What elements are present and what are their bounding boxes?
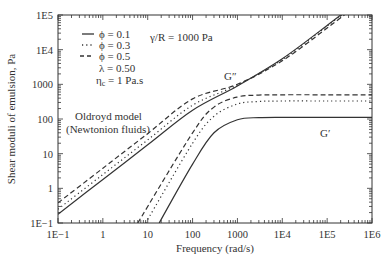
x-tick-label: 1E4 bbox=[274, 229, 292, 240]
x-tick-label: 10 bbox=[142, 229, 153, 240]
y-tick-label: 1000 bbox=[32, 79, 53, 90]
y-tick-label: 1 bbox=[48, 183, 53, 194]
y-tick-label: 10 bbox=[43, 149, 54, 160]
x-tick-label: 1E6 bbox=[364, 229, 381, 240]
x-tick-label: 1000 bbox=[227, 229, 248, 240]
gamma-annotation: γ/R = 1000 Pa bbox=[149, 31, 213, 43]
oldroyd-label-2: (Newtonion fluids) bbox=[66, 123, 150, 136]
x-tick-label: 1E5 bbox=[319, 229, 336, 240]
y-axis-title: Shear moduli of emulsion, Pa bbox=[5, 54, 17, 185]
x-tick-labels: 1E−111010010001E41E51E6 bbox=[47, 229, 381, 240]
series-line bbox=[159, 117, 372, 223]
x-tick-label: 1 bbox=[100, 229, 105, 240]
legend-lambda: λ = 0.50 bbox=[99, 62, 136, 74]
chart: 1E−111010010001E41E51E6 1E−111010010001E… bbox=[0, 0, 391, 266]
y-tick-label: 1E5 bbox=[36, 10, 53, 21]
x-axis-title: Frequency (rad/s) bbox=[176, 242, 254, 255]
y-tick-label: 1E4 bbox=[36, 45, 54, 56]
g-prime-label: G′ bbox=[320, 127, 330, 139]
x-tick-label: 100 bbox=[185, 229, 201, 240]
legend: ϕ = 0.1 ϕ = 0.3 ϕ = 0.5 λ = 0.50 ηc = 1 … bbox=[80, 28, 143, 88]
y-tick-labels: 1E−111010010001E41E5 bbox=[30, 10, 54, 229]
x-tick-label: 1E−1 bbox=[47, 229, 70, 240]
y-tick-label: 1E−1 bbox=[30, 218, 53, 229]
g-double-prime-label: G″ bbox=[224, 70, 237, 82]
series-line bbox=[138, 95, 372, 223]
oldroyd-label-1: Oldroyd model bbox=[75, 110, 142, 122]
legend-label-phi-0-5: ϕ = 0.5 bbox=[99, 50, 131, 62]
legend-eta: ηc = 1 Pa.s bbox=[96, 74, 143, 88]
y-tick-label: 100 bbox=[37, 114, 53, 125]
